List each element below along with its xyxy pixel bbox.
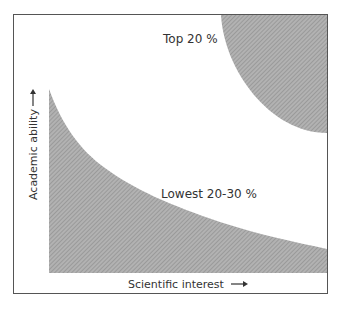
x-axis-arrow-icon xyxy=(231,281,248,287)
top-region-shading xyxy=(221,15,327,133)
top-region-label: Top 20 % xyxy=(162,32,218,46)
diagram-figure: Top 20 % Lowest 20-30 % Scientific inter… xyxy=(0,0,341,309)
y-axis-label: Academic ability xyxy=(27,109,40,200)
x-axis-label-text: Scientific interest xyxy=(128,278,225,291)
y-axis-label-text: Academic ability xyxy=(27,109,40,200)
lowest-region-label: Lowest 20-30 % xyxy=(161,187,257,201)
y-axis-arrow-icon xyxy=(30,89,36,106)
x-axis-label: Scientific interest xyxy=(128,278,225,291)
